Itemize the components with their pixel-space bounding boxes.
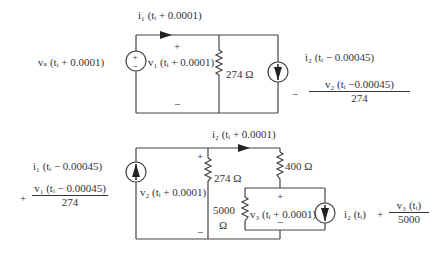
minus-sign: −: [174, 98, 180, 110]
fraction-numerator: v₁ (tᵢ − 0.00045): [32, 182, 108, 196]
plus-sign: +: [197, 150, 203, 162]
i1-label: i₁ (tᵢ + 0.0001): [138, 9, 202, 21]
resistor-274-bottom-icon: [205, 158, 211, 181]
top-circuit-wires: [136, 35, 278, 113]
fraction-numerator: v₃ (tᵢ): [389, 199, 429, 213]
v1-label: v₁ (tᵢ + 0.0001): [148, 56, 214, 68]
v2-label: v₂ (tᵢ + 0.0001): [140, 186, 206, 198]
plus-sign: +: [174, 40, 180, 52]
expr-sign: −: [292, 88, 298, 100]
resistor-5000-label: 5000: [213, 204, 235, 216]
v1-fraction: v₁ (tᵢ − 0.00045) 274: [32, 182, 108, 209]
fraction-numerator: v₂ (tᵢ −0.00045): [309, 78, 410, 92]
fraction-denominator: 274: [309, 92, 410, 105]
vs-label: vₛ (tᵢ + 0.0001): [38, 56, 104, 68]
resistor-274-label: 274 Ω: [214, 172, 241, 184]
minus-sign: −: [277, 216, 283, 228]
resistor-400-label: 400 Ω: [285, 160, 312, 172]
resistor-5000-unit: Ω: [219, 219, 227, 231]
fraction-denominator: 5000: [389, 213, 429, 226]
i2-label: i₂ (tᵢ − 0.00045): [305, 51, 374, 63]
source-minus-sign: −: [133, 61, 138, 71]
resistor-274-label: 274 Ω: [226, 68, 253, 80]
i2-current-label: i₂ (tᵢ + 0.0001): [212, 128, 276, 140]
v3-fraction: v₃ (tᵢ) 5000: [389, 199, 429, 226]
right-expr-sign: +: [377, 208, 383, 220]
resistor-274-icon: [216, 50, 222, 75]
resistor-5000-icon: [242, 197, 248, 221]
source-expr-sign: +: [20, 192, 26, 204]
plus-sign: +: [277, 190, 283, 202]
v2-fraction: v₂ (tᵢ −0.00045) 274: [309, 78, 410, 105]
i2-ti-label: i₂ (tᵢ): [344, 208, 366, 220]
fraction-denominator: 274: [32, 196, 108, 209]
arrow-right-icon: [238, 144, 250, 152]
minus-sign: −: [197, 226, 203, 238]
arrow-right-icon: [160, 31, 172, 39]
resistor-400-icon: [277, 152, 283, 179]
i1-source-label: i₁ (tᵢ − 0.00045): [33, 160, 102, 172]
